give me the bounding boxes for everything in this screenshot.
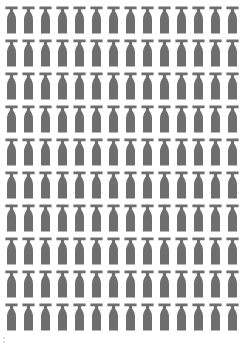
bottle-icon: [5, 237, 18, 265]
bottle-icon: [22, 171, 35, 199]
speck-dot: [3, 341, 5, 343]
bottle-icon: [209, 237, 222, 265]
bottle-icon: [73, 105, 86, 133]
bottle-icon: [175, 237, 188, 265]
bottle-icon: [141, 39, 154, 67]
bottle-icon: [158, 303, 171, 331]
pictogram-row: [0, 6, 243, 34]
bottle-icon: [107, 204, 120, 232]
bottle-icon: [73, 6, 86, 34]
bottle-icon: [158, 6, 171, 34]
bottle-icon: [158, 171, 171, 199]
bottle-icon: [73, 138, 86, 166]
pictogram-figure: [0, 0, 243, 346]
bottle-icon: [175, 72, 188, 100]
bottle-icon: [175, 138, 188, 166]
bottle-icon: [158, 72, 171, 100]
bottle-icon: [141, 171, 154, 199]
bottle-icon: [107, 105, 120, 133]
bottle-icon: [158, 270, 171, 298]
pictogram-row: [0, 303, 243, 331]
bottle-icon: [56, 138, 69, 166]
bottle-icon: [158, 237, 171, 265]
bottle-icon: [56, 6, 69, 34]
bottle-icon: [192, 39, 205, 67]
bottle-icon: [124, 138, 137, 166]
bottle-icon: [141, 270, 154, 298]
bottle-icon: [124, 171, 137, 199]
bottle-icon: [226, 138, 239, 166]
bottle-icon: [107, 138, 120, 166]
bottle-icon: [107, 303, 120, 331]
bottle-icon: [90, 138, 103, 166]
bottle-icon: [209, 270, 222, 298]
bottle-icon: [175, 270, 188, 298]
bottle-icon: [5, 72, 18, 100]
bottle-icon: [141, 72, 154, 100]
bottle-icon: [124, 6, 137, 34]
bottle-icon: [56, 105, 69, 133]
bottle-icon: [209, 171, 222, 199]
bottle-icon: [22, 39, 35, 67]
bottle-icon: [175, 39, 188, 67]
bottle-icon: [226, 39, 239, 67]
bottle-icon: [209, 204, 222, 232]
bottle-icon: [209, 72, 222, 100]
bottle-icon: [141, 237, 154, 265]
bottle-icon: [22, 204, 35, 232]
bottle-icon: [39, 303, 52, 331]
pictogram-row: [0, 237, 243, 265]
bottle-icon: [192, 105, 205, 133]
bottle-icon: [22, 6, 35, 34]
bottle-icon: [22, 72, 35, 100]
bottle-icon: [158, 138, 171, 166]
bottle-icon: [226, 237, 239, 265]
bottle-icon: [5, 105, 18, 133]
pictogram-row: [0, 138, 243, 166]
bottle-icon: [226, 204, 239, 232]
bottle-icon: [141, 303, 154, 331]
bottle-icon: [90, 72, 103, 100]
bottle-icon: [56, 39, 69, 67]
bottle-icon: [226, 171, 239, 199]
bottle-icon: [90, 171, 103, 199]
bottle-icon: [22, 237, 35, 265]
bottle-icon: [73, 39, 86, 67]
bottle-icon: [73, 204, 86, 232]
pictogram-row: [0, 204, 243, 232]
bottle-icon: [124, 237, 137, 265]
bottle-icon: [226, 303, 239, 331]
bottle-icon: [141, 105, 154, 133]
bottle-icon: [209, 105, 222, 133]
bottle-icon: [107, 270, 120, 298]
bottle-icon: [107, 39, 120, 67]
pictogram-row: [0, 105, 243, 133]
bottle-icon: [73, 303, 86, 331]
bottle-icon: [124, 105, 137, 133]
bottle-icon: [226, 6, 239, 34]
bottle-icon: [124, 72, 137, 100]
bottle-icon: [56, 237, 69, 265]
bottle-icon: [56, 204, 69, 232]
bottle-icon: [90, 270, 103, 298]
bottle-icon: [39, 237, 52, 265]
bottle-icon: [192, 72, 205, 100]
pictogram-row: [0, 171, 243, 199]
bottle-icon: [39, 138, 52, 166]
bottle-icon: [141, 204, 154, 232]
bottle-icon: [5, 39, 18, 67]
bottle-icon: [124, 303, 137, 331]
pictogram-row: [0, 72, 243, 100]
bottle-icon: [141, 138, 154, 166]
bottle-icon: [226, 72, 239, 100]
bottle-icon: [107, 171, 120, 199]
bottle-icon: [192, 303, 205, 331]
bottle-icon: [158, 204, 171, 232]
bottle-icon: [209, 6, 222, 34]
bottle-icon: [90, 105, 103, 133]
bottle-icon: [90, 303, 103, 331]
bottle-icon: [22, 105, 35, 133]
speck-dot: [3, 337, 5, 339]
bottle-icon: [107, 72, 120, 100]
bottle-icon: [39, 6, 52, 34]
